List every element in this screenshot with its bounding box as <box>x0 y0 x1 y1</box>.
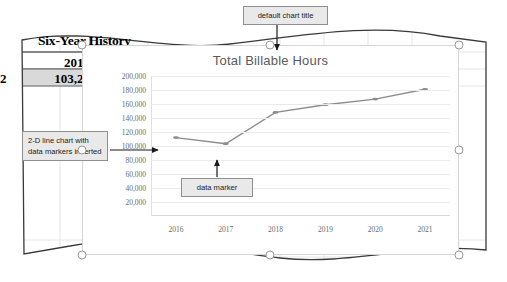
figure-canvas: Six-Year History 2017 2 103,25 Total Bil… <box>0 0 507 282</box>
handle-bottom-left[interactable] <box>78 251 87 260</box>
handle-top-right[interactable] <box>455 41 464 50</box>
callout-data-marker: data marker <box>181 178 253 197</box>
callout-default-chart-title: default chart title <box>243 6 328 25</box>
handle-middle-left[interactable] <box>78 146 87 155</box>
callout-line-chart: 2-D line chart with data markers inserte… <box>22 131 108 161</box>
handle-top-left[interactable] <box>78 41 87 50</box>
handle-top-center[interactable] <box>266 41 275 50</box>
handle-middle-right[interactable] <box>455 146 464 155</box>
handle-bottom-right[interactable] <box>455 251 464 260</box>
handle-bottom-center[interactable] <box>266 251 275 260</box>
